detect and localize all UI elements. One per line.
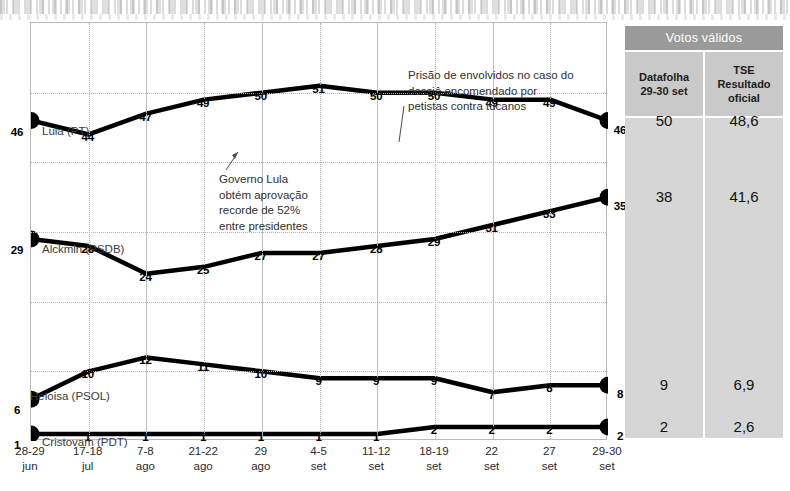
x-axis-tick-label: 22 set xyxy=(462,444,522,474)
x-axis-tick-label: 11-12 set xyxy=(346,444,406,474)
table-cell-tse: 6,9 xyxy=(705,376,783,393)
point-value-label: 1 xyxy=(373,431,379,443)
horizontal-gridline xyxy=(31,162,606,163)
point-value-label: 25 xyxy=(197,264,209,276)
point-value-label: 51 xyxy=(312,83,324,95)
series-endpoint-marker xyxy=(31,112,40,129)
point-value-label: 27 xyxy=(255,250,267,262)
horizontal-gridline xyxy=(31,371,606,372)
horizontal-gridline xyxy=(31,302,606,303)
table-title: Votos válidos xyxy=(625,26,783,50)
point-value-label: 8 xyxy=(617,388,623,400)
x-axis-tick-label: 28-29 jun xyxy=(0,444,60,474)
vertical-gridline xyxy=(146,23,147,439)
scan-artifact-strip-top xyxy=(0,0,790,14)
point-value-label: 2 xyxy=(431,424,437,436)
point-value-label: 2 xyxy=(488,424,494,436)
point-value-label: 47 xyxy=(139,111,151,123)
x-axis-tick-label: 27 set xyxy=(519,444,579,474)
poll-chart-page: 4644474950515050494946292824252727282931… xyxy=(0,0,790,491)
point-value-label: 9 xyxy=(315,375,321,387)
point-value-label: 11 xyxy=(197,361,209,373)
table-header-tse: TSE Resultado oficial xyxy=(705,52,783,116)
table-column-tse: 48,641,66,92,6 xyxy=(705,118,783,438)
point-value-label: 10 xyxy=(81,368,93,380)
point-value-label: 8 xyxy=(546,382,552,394)
series-endpoint-marker xyxy=(600,189,609,206)
point-value-label: 9 xyxy=(373,375,379,387)
point-value-label: 10 xyxy=(255,368,267,380)
series-name-label: Lula (PT) xyxy=(42,125,89,137)
series-endpoint-marker xyxy=(600,419,609,436)
point-value-label: 9 xyxy=(431,375,437,387)
x-axis-tick-label: 29-30 set xyxy=(577,444,637,474)
point-value-label: 2 xyxy=(546,424,552,436)
table-cell-tse: 48,6 xyxy=(705,111,783,128)
x-axis-tick-label: 17-18 jul xyxy=(58,444,118,474)
point-value-label: 24 xyxy=(139,271,151,283)
point-value-label: 28 xyxy=(370,243,382,255)
table-cell-datafolha: 38 xyxy=(625,188,703,205)
point-value-label: 1 xyxy=(258,431,264,443)
point-value-label: 50 xyxy=(370,90,382,102)
x-axis-tick-label: 7-8 ago xyxy=(115,444,175,474)
annotation-dossie: Prisão de envolvidos no caso do dossiê e… xyxy=(408,68,613,115)
table-header-row: Datafolha 29-30 set TSE Resultado oficia… xyxy=(625,52,783,116)
table-header-datafolha: Datafolha 29-30 set xyxy=(625,52,703,116)
x-axis-labels: 28-29 jun17-18 jul7-8 ago21-22 ago29 ago… xyxy=(30,444,607,490)
point-value-label: 6 xyxy=(14,404,20,416)
point-value-label: 46 xyxy=(11,126,23,138)
x-axis-tick-label: 4-5 set xyxy=(289,444,349,474)
table-column-datafolha: 503892 xyxy=(625,118,703,438)
table-body: 503892 48,641,66,92,6 xyxy=(625,118,783,438)
line-chart: 4644474950515050494946292824252727282931… xyxy=(0,18,620,491)
point-value-label: 2 xyxy=(617,430,623,442)
series-endpoint-marker xyxy=(31,426,40,441)
point-value-label: 27 xyxy=(312,250,324,262)
series-name-label: Alckmin (PSDB) xyxy=(42,243,124,255)
point-value-label: 33 xyxy=(543,208,555,220)
point-value-label: 1 xyxy=(315,431,321,443)
point-value-label: 50 xyxy=(255,90,267,102)
x-axis-tick-label: 18-19 set xyxy=(404,444,464,474)
point-value-label: 29 xyxy=(428,236,440,248)
point-value-label: 49 xyxy=(197,97,209,109)
point-value-label: 1 xyxy=(142,431,148,443)
series-endpoint-marker xyxy=(600,377,609,394)
point-value-label: 1 xyxy=(200,431,206,443)
table-cell-tse: 2,6 xyxy=(705,418,783,435)
table-cell-tse: 41,6 xyxy=(705,188,783,205)
x-axis-tick-label: 29 ago xyxy=(231,444,291,474)
vertical-gridline xyxy=(204,23,205,439)
point-value-label: 29 xyxy=(11,244,23,256)
series-endpoint-marker xyxy=(31,230,40,247)
point-value-label: 7 xyxy=(488,389,494,401)
table-cell-datafolha: 2 xyxy=(625,418,703,435)
point-value-label: 12 xyxy=(139,354,151,366)
series-name-label: Heloisa (PSOL) xyxy=(30,390,110,402)
valid-votes-table: Votos válidos Datafolha 29-30 set TSE Re… xyxy=(625,26,783,438)
annotation-aprovacao: Governo Lula obtém aprovação recorde de … xyxy=(219,172,394,234)
point-value-label: 31 xyxy=(485,222,497,234)
table-cell-datafolha: 9 xyxy=(625,376,703,393)
table-cell-datafolha: 50 xyxy=(625,111,703,128)
x-axis-tick-label: 21-22 ago xyxy=(173,444,233,474)
series-endpoint-marker xyxy=(600,112,609,129)
